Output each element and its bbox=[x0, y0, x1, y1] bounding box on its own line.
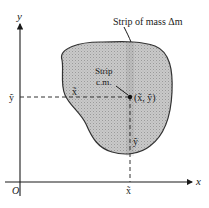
x-tilde-dashed-label: x̃ bbox=[72, 86, 77, 97]
x-tilde-axis-label: x̃ bbox=[126, 185, 131, 196]
y-tilde-axis-label: ỹ bbox=[9, 92, 14, 103]
origin-label: O bbox=[12, 185, 19, 196]
strip-cm-label-line1: Strip bbox=[95, 66, 113, 76]
strip-center-of-mass-point bbox=[128, 95, 132, 99]
x-axis-label: x bbox=[195, 175, 201, 187]
center-of-mass-diagram: y x O Strip of mass Δm Strip c.m. (x̃, ỹ… bbox=[0, 0, 209, 208]
strip-cm-label-line2: c.m. bbox=[96, 77, 112, 87]
y-axis-label: y bbox=[16, 10, 22, 22]
strip-of-mass-label: Strip of mass Δm bbox=[113, 16, 183, 27]
point-coordinates-label: (x̃, ỹ) bbox=[134, 92, 156, 104]
y-tilde-dashed-label: ỹ bbox=[133, 136, 138, 147]
strip-leader-line bbox=[124, 27, 131, 42]
